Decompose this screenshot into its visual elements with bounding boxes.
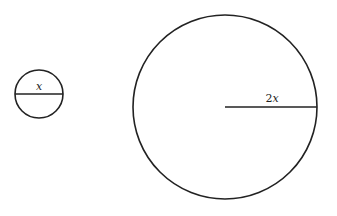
large-circle-label-var: x <box>272 92 279 105</box>
diagram-canvas: x 2x <box>0 0 337 216</box>
large-circle-figure: 2x <box>133 15 317 199</box>
large-circle-label: 2x <box>265 92 279 105</box>
small-circle-figure: x <box>15 70 63 118</box>
small-circle-label: x <box>36 80 43 93</box>
large-circle-label-coef: 2 <box>265 92 272 105</box>
